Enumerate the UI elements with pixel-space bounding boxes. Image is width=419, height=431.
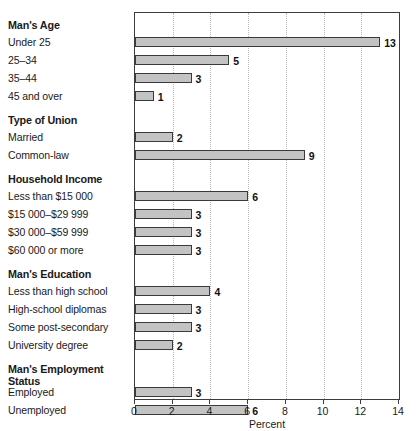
x-axis-tick-mark: [172, 400, 173, 404]
x-axis-tick-mark: [134, 400, 135, 404]
x-axis: Percent 02468101214: [134, 400, 400, 430]
horizontal-bar-chart: Man's AgeUnder 2525–3435–4445 and overTy…: [0, 0, 419, 431]
bar-value-label: 1: [158, 92, 164, 102]
bar: [135, 191, 248, 201]
category-label: 25–34: [8, 55, 132, 66]
bar: [135, 73, 192, 83]
category-label: 35–44: [8, 73, 132, 84]
bar: [135, 227, 192, 237]
bar-value-label: 3: [196, 388, 202, 398]
category-label: Married: [8, 132, 132, 143]
x-axis-tick-label: 0: [131, 405, 137, 417]
x-axis-tick-mark: [360, 400, 361, 404]
bar: [135, 150, 305, 160]
category-label: $60 000 or more: [8, 245, 132, 256]
bar: [135, 132, 173, 142]
x-axis-tick-label: 6: [244, 405, 250, 417]
x-axis-tick-label: 14: [392, 405, 404, 417]
x-axis-tick-label: 4: [207, 405, 213, 417]
bar: [135, 340, 173, 350]
plot-area: 13531296333433236: [134, 12, 400, 400]
bar-value-label: 3: [196, 228, 202, 238]
category-label: High-school diplomas: [8, 304, 132, 315]
bar-value-label: 3: [196, 74, 202, 84]
bar-value-label: 6: [252, 192, 258, 202]
category-label: Less than high school: [8, 286, 132, 297]
category-label: Common-law: [8, 150, 132, 161]
x-axis-tick-label: 2: [169, 405, 175, 417]
x-axis-tick-mark: [323, 400, 324, 404]
bar-value-label: 3: [196, 210, 202, 220]
bar: [135, 91, 154, 101]
bar: [135, 55, 229, 65]
bar-value-label: 3: [196, 246, 202, 256]
bar-value-label: 4: [214, 287, 220, 297]
x-axis-tick-mark: [398, 400, 399, 404]
x-axis-tick-mark: [285, 400, 286, 404]
bar-value-label: 3: [196, 305, 202, 315]
group-title: Man's EmploymentStatus: [8, 364, 132, 387]
bar: [135, 387, 192, 397]
group-title: Man's Education: [8, 269, 132, 280]
category-label: $15 000–$29 999: [8, 209, 132, 220]
x-axis-tick-mark: [247, 400, 248, 404]
bar: [135, 245, 192, 255]
x-axis-tick-label: 10: [317, 405, 329, 417]
category-label: Under 25: [8, 37, 132, 48]
category-label: Employed: [8, 387, 132, 398]
category-label: $30 000–$59 999: [8, 227, 132, 238]
category-label-column: Man's AgeUnder 2525–3435–4445 and overTy…: [0, 0, 130, 400]
bar-value-label: 5: [233, 56, 239, 66]
category-label: 45 and over: [8, 91, 132, 102]
category-label: University degree: [8, 340, 132, 351]
bar: [135, 322, 192, 332]
x-axis-tick-label: 12: [354, 405, 366, 417]
bar-value-label: 9: [309, 151, 315, 161]
x-axis-tick-label: 8: [282, 405, 288, 417]
group-title: Type of Union: [8, 115, 132, 126]
bars-container: 13531296333433236: [135, 13, 399, 399]
x-axis-tick-mark: [209, 400, 210, 404]
group-title: Household Income: [8, 174, 132, 185]
bar: [135, 304, 192, 314]
category-label: Some post-secondary: [8, 322, 132, 333]
x-axis-title: Percent: [134, 418, 400, 430]
bar-value-label: 13: [384, 38, 396, 48]
bar-value-label: 2: [177, 341, 183, 351]
bar: [135, 209, 192, 219]
bar: [135, 286, 210, 296]
group-title: Man's Age: [8, 20, 132, 31]
group-title-line: Man's Employment: [8, 364, 132, 376]
bar: [135, 37, 380, 47]
category-label: Less than $15 000: [8, 191, 132, 202]
bar-value-label: 3: [196, 323, 202, 333]
category-label: Unemployed: [8, 405, 132, 416]
bar-value-label: 2: [177, 133, 183, 143]
